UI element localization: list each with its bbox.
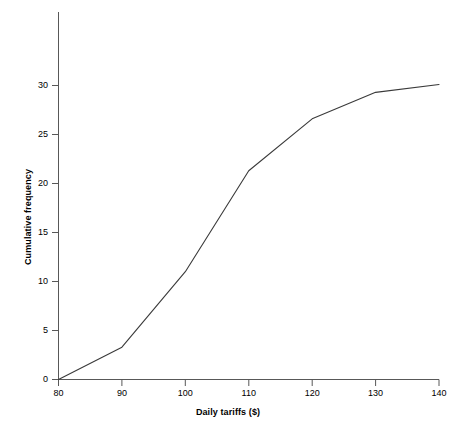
x-tick-label-80: 80 [44, 388, 74, 398]
y-axis-ticks [52, 86, 59, 380]
x-axis-ticks [59, 380, 440, 387]
x-axis-title: Daily tariffs ($) [0, 407, 456, 417]
x-tick-label-90: 90 [107, 388, 137, 398]
x-tick-label-120: 120 [297, 388, 327, 398]
y-tick-label-30: 30 [24, 80, 48, 90]
plot-area [0, 0, 456, 428]
x-tick-label-110: 110 [234, 388, 264, 398]
y-tick-label-5: 5 [24, 325, 48, 335]
x-tick-label-130: 130 [361, 388, 391, 398]
y-axis-title: Cumulative frequency [23, 127, 33, 307]
cumulative-frequency-chart: 80 90 100 110 120 130 140 0 5 10 15 20 2… [0, 0, 456, 428]
x-tick-label-100: 100 [170, 388, 200, 398]
x-tick-label-140: 140 [424, 388, 454, 398]
y-tick-label-0: 0 [24, 374, 48, 384]
cumulative-frequency-line [59, 85, 440, 380]
